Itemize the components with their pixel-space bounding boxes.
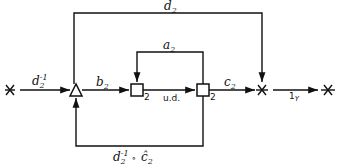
- label-a2: a2: [163, 38, 175, 54]
- edge-box2-triangle-feedback: [76, 96, 203, 146]
- label-ud: u.d.: [163, 93, 180, 103]
- box1-node-icon: [131, 84, 143, 96]
- label-c2: c2: [224, 75, 236, 91]
- junction-star-icon: [256, 85, 268, 95]
- sink-star-icon: [321, 85, 335, 95]
- edge-box2-box1-a2: [137, 52, 203, 84]
- label-bottom-feedback: d-12∘ĉ2: [113, 149, 153, 166]
- source-star-icon: [5, 85, 15, 95]
- label-box1: 2: [144, 92, 150, 102]
- box2-node-icon: [197, 84, 209, 96]
- label-top-d2: d2: [164, 0, 177, 15]
- label-1y: 1Y: [289, 91, 300, 103]
- signal-flow-diagram: d2 d-12 b2 a2 2 2 u.d. c2 1Y d-12∘ĉ2: [0, 0, 340, 167]
- triangle-node-icon: [70, 84, 82, 96]
- label-input-d2-inv: d-12: [32, 73, 47, 90]
- label-b2: b2: [96, 75, 109, 91]
- label-box2: 2: [210, 92, 216, 102]
